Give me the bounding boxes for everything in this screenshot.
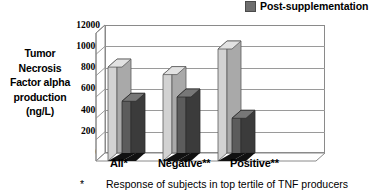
gridline-6000 xyxy=(105,89,325,90)
gridline-2000 xyxy=(105,132,325,133)
x-label-negative: Negative** xyxy=(158,157,210,169)
gridline-10000 xyxy=(105,46,325,47)
y-tick-0: 0 xyxy=(56,147,100,157)
y-tick-12000: 12000 xyxy=(56,20,100,30)
x-label-positive: Positive** xyxy=(230,157,279,169)
y-tick-6000: 6000 xyxy=(56,83,100,93)
x-label-all: All* xyxy=(110,157,128,169)
legend-swatch-icon xyxy=(245,1,256,12)
chart-legend: Post-supplementation xyxy=(245,1,368,12)
y-tick-4000: 4000 xyxy=(56,105,100,115)
gridline-4000 xyxy=(105,110,325,111)
legend-label-post-supplementation: Post-supplementation xyxy=(260,1,368,12)
plot-area xyxy=(105,25,325,153)
y-tick-8000: 8000 xyxy=(56,62,100,72)
y-tick-2000: 2000 xyxy=(56,126,100,136)
footnote-mark: * xyxy=(80,178,106,190)
gridline-8000 xyxy=(105,68,325,69)
footnote: * Response of subjects in top tertile of… xyxy=(80,178,391,190)
y-axis-ticks: 12000 10000 8000 6000 4000 2000 0 xyxy=(50,0,100,194)
y-tick-10000: 10000 xyxy=(56,41,100,51)
tnf-bar-chart: Post-supplementation Tumor Necrosis Fact… xyxy=(0,0,391,194)
footnote-text: Response of subjects in top tertile of T… xyxy=(106,178,348,190)
x-axis-category-labels: All* Negative** Positive** xyxy=(95,157,335,173)
